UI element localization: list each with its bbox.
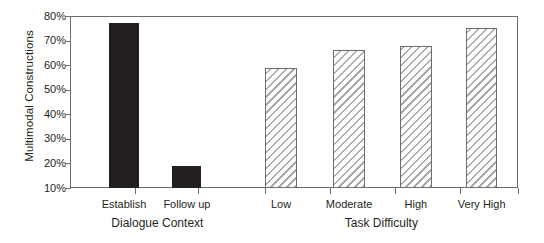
- x-axis-category-label: Low: [271, 198, 291, 211]
- x-axis-category-label: Moderate: [326, 198, 372, 211]
- x-axis-category-label: Establish: [102, 198, 147, 211]
- x-axis-ticks: [70, 188, 518, 194]
- y-axis-tick-label: 20%: [26, 158, 66, 169]
- bar-moderate: [333, 50, 364, 188]
- x-axis-category-label: Very High: [458, 198, 506, 211]
- x-axis-group-title: Dialogue Context: [111, 216, 203, 230]
- y-axis-tick-label: 30%: [26, 133, 66, 144]
- x-axis-tick-mark: [395, 188, 396, 194]
- x-axis-tick-mark: [135, 188, 136, 194]
- y-axis-tick-label: 50%: [26, 84, 66, 95]
- bar-high: [400, 46, 431, 189]
- x-axis-group-titles: Dialogue ContextTask Difficulty: [70, 216, 518, 234]
- x-axis-category-labels: EstablishFollow upLowModerateHighVery Hi…: [70, 198, 518, 214]
- x-axis-tick-mark: [265, 188, 266, 194]
- x-axis-tick-mark: [198, 188, 199, 194]
- x-axis-tick-mark: [460, 188, 461, 194]
- x-axis-category-label: Follow up: [163, 198, 210, 211]
- bar-follow-up: [172, 166, 201, 188]
- bar-low: [265, 68, 296, 188]
- x-axis-tick-mark: [518, 188, 519, 194]
- y-axis-tick-label: 60%: [26, 60, 66, 71]
- y-axis-tick-label: 10%: [26, 183, 66, 194]
- bars-layer: [70, 16, 518, 188]
- bar-very-high: [466, 28, 497, 188]
- y-axis-tick-labels: 80%70%60%50%40%30%20%10%: [26, 16, 66, 188]
- y-axis-tick-label: 80%: [26, 11, 66, 22]
- bar-chart: Multimodal Constructions 80%70%60%50%40%…: [0, 0, 544, 243]
- x-axis-category-label: High: [405, 198, 428, 211]
- y-axis-tick-label: 70%: [26, 35, 66, 46]
- bar-establish: [109, 23, 138, 188]
- y-axis-tick-label: 40%: [26, 109, 66, 120]
- x-axis-group-title: Task Difficulty: [345, 216, 418, 230]
- x-axis-tick-mark: [330, 188, 331, 194]
